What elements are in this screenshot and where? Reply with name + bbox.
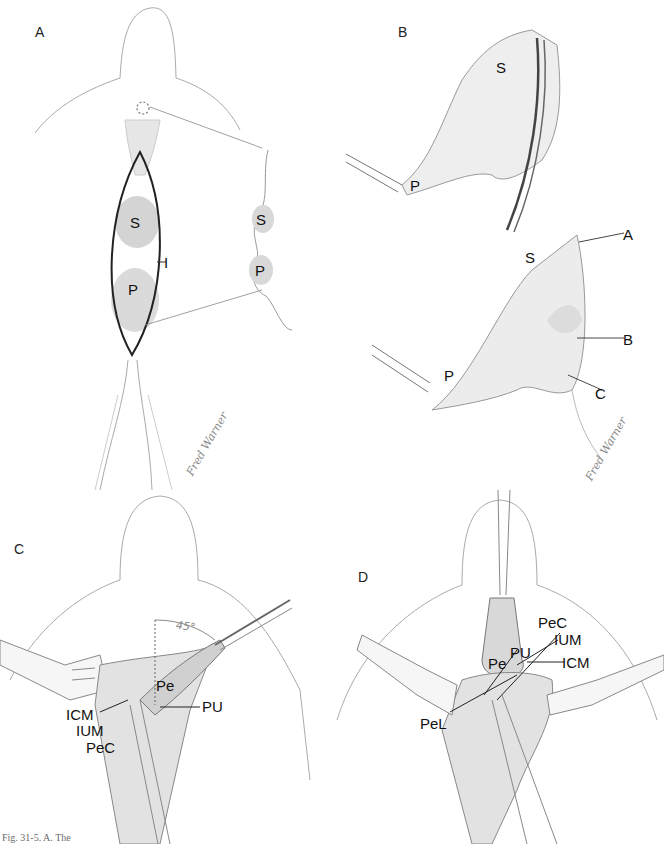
label-pu-c: PU <box>202 699 223 714</box>
label-ium-d: IUM <box>554 632 582 647</box>
panel-b: B S P S A B P C Fred Warner <box>332 0 664 490</box>
label-pec-d: PeC <box>538 615 567 630</box>
label-penis-bottom: P <box>444 368 454 383</box>
label-icm-d: ICM <box>562 655 590 670</box>
label-pe-d: Pe <box>488 656 506 671</box>
panel-c-label: C <box>14 542 24 556</box>
label-scrotum-bottom: S <box>525 250 535 265</box>
panel-a-label: A <box>35 25 44 39</box>
label-marker-c: C <box>595 386 606 401</box>
label-icm-c: ICM <box>66 707 94 722</box>
label-penis-top: P <box>410 178 420 193</box>
label-marker-b: B <box>623 332 633 347</box>
label-ium-c: IUM <box>76 723 104 738</box>
label-penis-side: P <box>255 263 265 278</box>
angle-label: 45° <box>175 619 196 635</box>
label-pec-c: PeC <box>86 740 115 755</box>
label-scrotum-side: S <box>256 212 266 227</box>
panel-c: C 45° Pe PU ICM IUM PeC <box>0 490 332 844</box>
panel-d-label: D <box>358 570 368 584</box>
panel-b-label: B <box>398 25 407 39</box>
panel-d: D PeC IUM PU Pe ICM PeL <box>332 490 664 844</box>
panel-a-illustration <box>0 0 332 490</box>
label-pel-d: PeL <box>420 716 447 731</box>
label-scrotum-top: S <box>496 60 506 75</box>
label-scrotum-front: S <box>130 215 140 230</box>
label-incision: I <box>164 255 168 270</box>
panel-c-illustration <box>0 490 332 844</box>
label-pe-c: Pe <box>156 678 174 693</box>
label-pu-d: PU <box>510 645 531 660</box>
figure-caption: Fig. 31-5. A. The <box>2 832 71 843</box>
label-marker-a: A <box>623 227 633 242</box>
label-penis-front: P <box>128 282 138 297</box>
panel-a: A S P I S P Fred Warner <box>0 0 332 490</box>
